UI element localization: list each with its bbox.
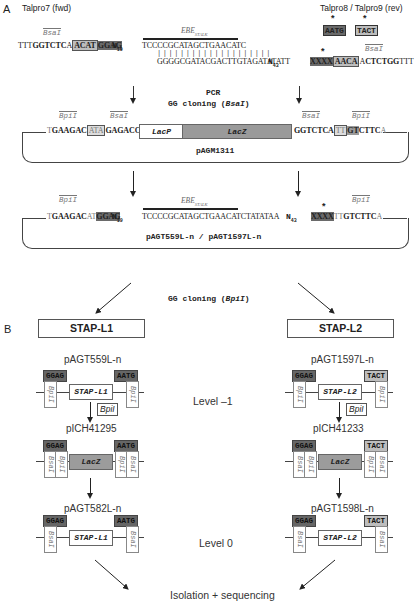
bsai-site: BsaI [375,451,388,478]
bpii-enzyme-box: BpiI [97,403,118,416]
gene-stap-l1: STAP-L1 [69,530,113,546]
panel-label-b: B [4,323,11,335]
stap-l2-title: STAP-L2 [287,319,394,338]
lacz-cassette: LacZ [69,454,113,470]
arrow-down-icon [90,478,91,495]
bsai-site: BsaI [126,526,139,553]
gene-stap-l1: STAP-L1 [69,384,113,400]
right-plasmid-2: pICH41233 [313,423,364,434]
bpii-site: BpiI [304,451,317,478]
gene-stap-l2: STAP-L2 [318,384,362,400]
bpii-site: BpiI [126,381,139,408]
bpii-site: BpiI [55,451,68,478]
step2-gg-cloning: GG cloning (BpiI) [168,294,250,303]
right-plasmid-3: pAGT1598L-n [311,503,374,514]
level-0-label: Level 0 [199,537,233,549]
arrow-down-icon [339,478,340,495]
arrow-down-icon [339,402,340,419]
bpii-site: BpiI [44,381,57,408]
left-plasmid-1: pAGT559L-n [64,354,121,365]
arrow-down-icon [90,402,91,419]
bsai-site: BsaI [375,526,388,553]
left-plasmid-2: pICH41295 [66,423,117,434]
bsai-site: BsaI [293,526,306,553]
final-step-label: Isolation + sequencing [170,589,275,601]
bpii-site: BpiI [293,381,306,408]
lacz-cassette: LacZ [318,454,362,470]
right-plasmid-1: pAGT1597L-n [311,354,374,365]
stap-l1-title: STAP-L1 [38,319,145,338]
left-plasmid-3: pAGT582L-n [64,503,121,514]
level-minus1-label: Level –1 [193,395,233,407]
bsai-site: BsaI [126,451,139,478]
gene-stap-l2: STAP-L2 [318,530,362,546]
bsai-site: BsaI [44,526,57,553]
bpii-site: BpiI [375,381,388,408]
cloning-diagram: A Talpro7 (fwd) Talpro8 / Talpro9 (rev) … [0,0,417,607]
bpii-enzyme-box: BpiI [346,403,367,416]
